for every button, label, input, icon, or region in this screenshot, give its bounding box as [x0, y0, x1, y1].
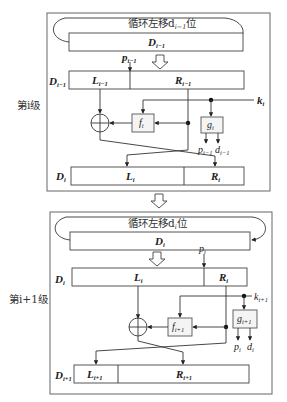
- output-register-label: Di+1: [54, 369, 72, 382]
- xor-icon: [129, 318, 147, 336]
- split-register-label: Di−1: [48, 75, 66, 88]
- xor-icon: [91, 114, 109, 132]
- split-register-label: Di: [54, 273, 65, 286]
- stage-label: 第i级: [17, 99, 41, 111]
- g-output-d: di: [247, 341, 254, 353]
- hollow-down-arrow-icon: [151, 194, 167, 208]
- shift-label: 循环左移di位: [128, 217, 188, 231]
- hollow-down-arrow-icon: [149, 252, 165, 266]
- split-input-label: pi−1: [121, 51, 137, 64]
- g-output-p: pi: [233, 341, 241, 353]
- output-register-label: Di: [55, 170, 66, 183]
- key-label: ki: [257, 94, 265, 107]
- shift-label: 循环左移di−1位: [128, 17, 197, 31]
- feistel-diagram: 循环左移di−1位 Di−1 pi−1 Di−1 Li−1 Ri−1 第i级 f…: [0, 0, 287, 402]
- key-label: ki+1: [254, 291, 268, 303]
- stage-label: 第i+1级: [9, 293, 49, 305]
- hollow-down-arrow-icon: [152, 55, 168, 69]
- stage-i-plus-1: 循环左移di位 Di pi Di Li Ri 第i+1级 fi+1 ki+1: [9, 212, 272, 394]
- g-output-d: di−1: [215, 144, 229, 156]
- stage-i: 循环左移di−1位 Di−1 pi−1 Di−1 Li−1 Ri−1 第i级 f…: [17, 13, 270, 191]
